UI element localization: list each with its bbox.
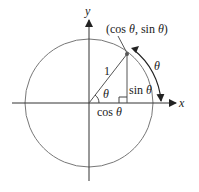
x-axis-label: x	[178, 96, 185, 110]
arc-theta-label: θ	[154, 59, 160, 73]
y-axis-label: y	[84, 4, 91, 18]
unit-circle-diagram: y x (cos θ, sin θ) 1 θ θ sin θ cos θ	[0, 0, 199, 192]
point-label: (cos θ, sin θ)	[106, 22, 168, 36]
label-leader-line	[118, 36, 127, 53]
sin-label: sin θ	[129, 83, 152, 97]
angle-theta-label: θ	[103, 87, 109, 101]
angle-arc	[95, 95, 99, 103]
theta-arc-arrow-start	[131, 46, 139, 53]
right-angle-marker	[119, 97, 127, 103]
radius-label: 1	[104, 64, 110, 78]
cos-label: cos θ	[97, 105, 122, 119]
